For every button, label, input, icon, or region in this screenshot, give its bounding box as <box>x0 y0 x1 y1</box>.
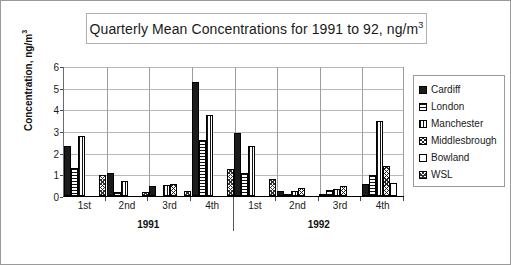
bar-wsl <box>142 192 149 196</box>
legend-item-bowland[interactable]: Bowland <box>419 149 500 166</box>
bar-london <box>284 194 291 196</box>
chart-title-superscript: 3 <box>418 20 423 30</box>
legend-label: Middlesbrough <box>431 135 497 146</box>
bar-group <box>234 67 277 196</box>
legend-item-middlesbrough[interactable]: Middlesbrough <box>419 132 500 149</box>
bar-london <box>326 190 333 196</box>
x-axis-tick-label: 4th <box>361 200 404 214</box>
bar-manchester <box>78 136 85 196</box>
y-axis-title: Concentration, ng/m3 <box>23 16 34 146</box>
bar-london <box>369 175 376 196</box>
chart-title-main: Quarterly Mean Concentrations for 1991 t… <box>90 21 419 37</box>
legend-label: Bowland <box>431 152 469 163</box>
plot-area <box>63 67 404 197</box>
y-axis-tick-label: 2 <box>45 148 59 159</box>
legend-item-manchester[interactable]: Manchester <box>419 115 500 132</box>
x-axis-tick-label: 2nd <box>276 200 319 214</box>
legend-swatch-icon <box>419 103 427 111</box>
legend-item-london[interactable]: London <box>419 98 500 115</box>
bar-london <box>199 140 206 196</box>
bar-group <box>319 67 362 196</box>
bar-group <box>149 67 192 196</box>
bar-group <box>192 67 235 196</box>
bar-wsl <box>269 179 276 196</box>
y-axis-title-main: Concentration, ng/m <box>23 34 34 131</box>
chart-container: Quarterly Mean Concentrations for 1991 t… <box>0 0 511 265</box>
bar-group <box>362 67 405 196</box>
bar-cardiff <box>319 194 326 196</box>
x-axis-group-label: 1992 <box>234 219 405 233</box>
x-axis-group-labels: 19911992 <box>63 219 404 233</box>
legend-item-cardiff[interactable]: Cardiff <box>419 81 500 98</box>
bar-cardiff <box>149 186 156 196</box>
x-axis-tick-label: 1st <box>234 200 277 214</box>
bar-cardiff <box>234 133 241 196</box>
y-axis-tick-label: 1 <box>45 170 59 181</box>
bar-cardiff <box>107 173 114 196</box>
legend-swatch-icon <box>419 86 427 94</box>
bar-wsl <box>184 191 191 196</box>
bar-london <box>71 168 78 196</box>
legend-label: WSL <box>431 169 453 180</box>
bar-wsl <box>99 175 106 196</box>
y-axis-tick-label: 4 <box>45 105 59 116</box>
bar-group <box>64 67 107 196</box>
y-axis-title-superscript: 3 <box>21 30 28 34</box>
bar-manchester <box>121 181 128 196</box>
bar-manchester <box>291 191 298 196</box>
legend-label: Cardiff <box>431 84 460 95</box>
legend-swatch-icon <box>419 154 427 162</box>
bar-middlesbrough <box>298 188 305 196</box>
y-axis-tick-label: 6 <box>45 62 59 73</box>
x-axis-tick-label: 3rd <box>148 200 191 214</box>
bar-london <box>114 192 121 196</box>
bar-cardiff <box>277 191 284 196</box>
legend-swatch-icon <box>419 120 427 128</box>
bar-group <box>277 67 320 196</box>
y-axis-tick-label: 0 <box>45 192 59 203</box>
bar-manchester <box>376 121 383 196</box>
x-axis-group-label: 1991 <box>63 219 234 233</box>
bar-manchester <box>206 115 213 196</box>
legend-item-wsl[interactable]: WSL <box>419 166 500 183</box>
legend-swatch-icon <box>419 137 427 145</box>
bar-london <box>241 173 248 196</box>
bar-manchester <box>248 146 255 196</box>
bar-middlesbrough <box>383 166 390 196</box>
legend-label: London <box>431 101 464 112</box>
bar-group <box>107 67 150 196</box>
legend-label: Manchester <box>431 118 483 129</box>
x-axis-tick-label: 1st <box>63 200 106 214</box>
y-axis-tick-label: 3 <box>45 127 59 138</box>
y-axis-tick-labels: 6543210 <box>43 67 59 197</box>
bar-middlesbrough <box>170 184 177 196</box>
x-axis-tick-label: 2nd <box>106 200 149 214</box>
y-axis-tick-label: 5 <box>45 83 59 94</box>
bar-wsl <box>227 169 234 196</box>
bar-middlesbrough <box>340 186 347 196</box>
bar-cardiff <box>192 82 199 196</box>
chart-legend: CardiffLondonManchesterMiddlesbroughBowl… <box>413 75 505 187</box>
plot-area-wrapper <box>63 67 404 197</box>
bars-layer <box>64 67 404 196</box>
chart-title: Quarterly Mean Concentrations for 1991 t… <box>90 21 424 37</box>
bar-manchester <box>163 185 170 196</box>
x-axis-tick-label: 4th <box>191 200 234 214</box>
bar-manchester <box>333 189 340 196</box>
bar-cardiff <box>64 146 71 196</box>
legend-swatch-icon <box>419 171 427 179</box>
bar-cardiff <box>362 184 369 196</box>
chart-title-box: Quarterly Mean Concentrations for 1991 t… <box>86 13 427 44</box>
x-axis-tick-label: 3rd <box>319 200 362 214</box>
bar-bowland <box>390 183 397 196</box>
